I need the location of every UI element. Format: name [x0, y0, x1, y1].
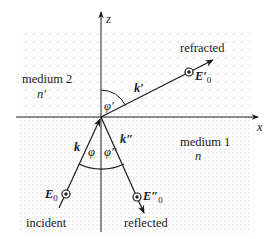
reflection-angle-label: φ″	[104, 145, 117, 159]
z-axis-label: z	[105, 12, 111, 26]
incidence-angle-label: φ	[88, 145, 95, 159]
refracted-label: refracted	[180, 41, 225, 55]
medium-1-name: medium 1	[180, 135, 230, 149]
incident-label: incident	[26, 216, 67, 230]
incident-field-dot-icon	[62, 190, 70, 198]
medium-2-index: n′	[37, 87, 46, 101]
refracted-field-dot-icon	[185, 68, 193, 76]
incident-field-subscript: 0	[53, 193, 58, 203]
reflected-field-dot-icon	[133, 193, 141, 201]
refraction-angle-label: φ′	[104, 99, 114, 113]
reflected-label: reflected	[124, 216, 168, 230]
reflected-wavevector-label: k″	[120, 132, 133, 146]
refracted-field-subscript: 0	[207, 75, 212, 85]
medium-2-name: medium 2	[22, 72, 72, 86]
reflected-field-subscript: 0	[158, 195, 163, 205]
reflection-refraction-diagram: z x medium 2 n′ medium 1 n refracted inc…	[0, 0, 278, 239]
x-axis-label: x	[256, 120, 263, 134]
refracted-wavevector-label: k′	[134, 81, 144, 95]
incident-wavevector-label: k	[74, 140, 81, 154]
medium-1-index: n	[195, 149, 201, 163]
